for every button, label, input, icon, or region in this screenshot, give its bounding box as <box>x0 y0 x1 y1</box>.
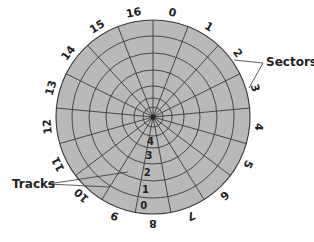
sector-number-label: 7 <box>185 208 197 223</box>
track-number-label: 4 <box>147 136 154 147</box>
track-number-label: 3 <box>145 150 152 161</box>
sector-number-label: 2 <box>230 46 245 60</box>
sectors-label: Sectors <box>266 55 314 69</box>
sector-number-label: 0 <box>168 6 178 20</box>
sector-number-label: 6 <box>217 188 232 203</box>
track-number-label: 2 <box>144 167 151 178</box>
sector-number-label: 16 <box>125 5 143 21</box>
track-number-label: 1 <box>142 184 149 195</box>
sector-number-label: 1 <box>202 19 215 34</box>
sector-number-label: 9 <box>109 208 121 223</box>
sector-number-label: 8 <box>149 217 157 230</box>
tracks-label: Tracks <box>12 177 55 191</box>
track-number-label: 0 <box>140 200 147 211</box>
disk-center <box>151 115 156 120</box>
sector-number-label: 13 <box>43 79 60 97</box>
sector-number-label: 12 <box>40 119 54 135</box>
sector-number-label: 4 <box>252 122 266 131</box>
disk-diagram: 012345678910111213141516 01234 <box>0 0 314 242</box>
sector-number-label: 5 <box>240 158 255 171</box>
sector-number-label: 3 <box>248 83 263 94</box>
